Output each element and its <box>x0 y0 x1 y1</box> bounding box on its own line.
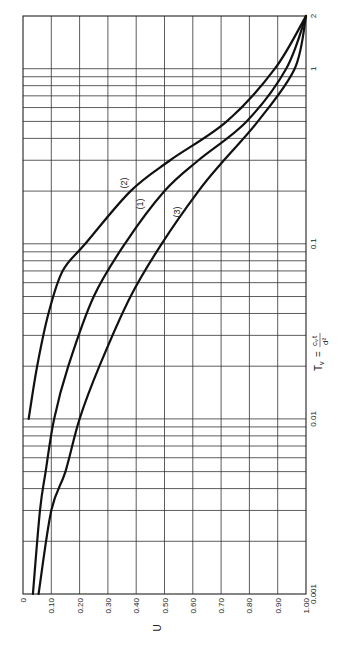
svg-text:=: = <box>313 351 324 357</box>
u-tick-label: 0.60 <box>189 597 198 613</box>
curve-label-2: (2) <box>119 177 129 188</box>
tv-tick-label: 0.01 <box>309 411 318 427</box>
tv-tick-label: 2 <box>309 13 318 18</box>
u-tick-label: 0.50 <box>161 597 170 613</box>
u-gridlines <box>51 16 277 594</box>
tv-tick-label: 1 <box>309 66 318 71</box>
u-tick-labels: 00.100.200.300.400.500.600.700.800.901.0… <box>19 597 311 613</box>
tv-tick-label: 0.1 <box>309 238 318 250</box>
svg-text:Tv: Tv <box>313 361 325 371</box>
u-tick-label: 0.20 <box>76 597 85 613</box>
curve-1 <box>33 16 306 594</box>
tv-axis-label: Tv = cvt d² <box>310 333 330 371</box>
curve-label-3: (3) <box>172 206 182 217</box>
curve-label-1: (1) <box>135 198 145 209</box>
u-tick-label: 0.30 <box>104 597 113 613</box>
u-tick-label: 0.70 <box>217 597 226 613</box>
u-tick-label: 0.10 <box>47 597 56 613</box>
u-tick-label: 0.80 <box>245 597 254 613</box>
u-tick-label: 0 <box>19 597 28 602</box>
svg-text:d²: d² <box>321 338 330 345</box>
svg-text:cvt: cvt <box>310 335 319 346</box>
consolidation-chart: 00.100.200.300.400.500.600.700.800.901.0… <box>0 0 341 645</box>
tv-tick-label: 0.001 <box>309 583 318 604</box>
curve-3 <box>39 16 306 594</box>
curves <box>29 16 306 594</box>
tv-tick-labels: 0.0010.010.112 <box>309 13 318 604</box>
u-tick-label: 0.90 <box>274 597 283 613</box>
u-axis-label: U <box>152 624 163 631</box>
u-tick-label: 0.40 <box>132 597 141 613</box>
